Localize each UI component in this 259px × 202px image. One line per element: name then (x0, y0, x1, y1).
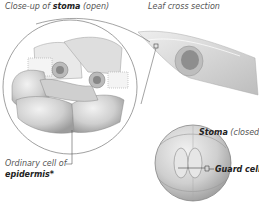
epidermis-label: epidermis* (5, 170, 54, 179)
open-stoma-closeup (3, 20, 137, 154)
stoma-closed-label: Stoma (closed) (199, 128, 259, 137)
leaf-cross-section-label: Leaf cross section (148, 2, 220, 11)
closeup-title: Close-up of stoma (open) (5, 2, 109, 11)
guard-cells-label: Guard cells (215, 165, 259, 174)
ordinary-cell-label: Ordinary cell of (5, 159, 66, 168)
leaf-cross-section (138, 31, 258, 95)
